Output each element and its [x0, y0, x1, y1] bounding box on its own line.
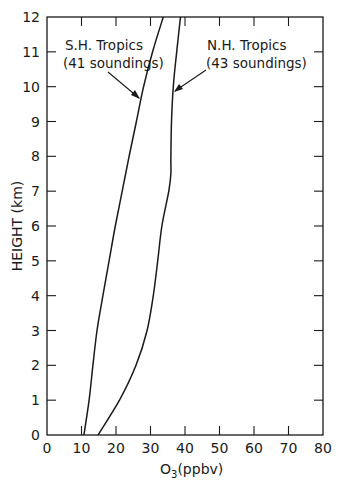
y-axis-title: HEIGHT (km) — [9, 181, 25, 272]
y-tick-label: 9 — [31, 114, 40, 130]
y-tick-label: 6 — [31, 218, 40, 234]
x-tick-label: 30 — [142, 440, 160, 456]
nh-arrowhead-icon — [174, 84, 183, 92]
y-tick-label: 11 — [22, 44, 40, 60]
y-tick-label: 10 — [22, 79, 40, 95]
y-tick-label: 12 — [22, 9, 40, 25]
x-tick-label: 20 — [107, 440, 125, 456]
x-tick-label: 70 — [280, 440, 298, 456]
y-tick-label: 5 — [31, 253, 40, 269]
y-tick-label: 7 — [31, 183, 40, 199]
sh-arrowhead-icon — [131, 90, 140, 99]
x-tick-label: 80 — [314, 440, 332, 456]
y-tick-label: 4 — [31, 288, 40, 304]
y-tick-label: 3 — [31, 323, 40, 339]
nh-label-line1: N.H. Tropics — [207, 37, 286, 53]
y-tick-label: 1 — [31, 392, 40, 408]
axis-ticks — [47, 17, 323, 435]
y-tick-label: 2 — [31, 357, 40, 373]
x-tick-label: 0 — [43, 440, 52, 456]
x-axis-title-main: O — [160, 461, 171, 477]
y-tick-label: 0 — [31, 427, 40, 443]
y-tick-label: 8 — [31, 148, 40, 164]
sh-tropics-curve — [84, 17, 163, 435]
x-tick-label: 40 — [176, 440, 194, 456]
nh-label-line2: (43 soundings) — [206, 55, 307, 71]
x-tick-label: 50 — [211, 440, 229, 456]
data-curves — [84, 17, 181, 435]
x-axis-title-unit: (ppbv) — [177, 461, 223, 477]
plot-frame — [47, 17, 323, 435]
nh-tropics-curve — [98, 17, 180, 435]
x-axis-title: O3(ppbv) — [160, 461, 223, 480]
x-tick-labels: 01020304050607080 — [43, 440, 332, 456]
x-tick-label: 60 — [245, 440, 263, 456]
sh-label-line1: S.H. Tropics — [65, 37, 143, 53]
x-tick-label: 10 — [73, 440, 91, 456]
sh-label-line2: (41 soundings) — [63, 55, 164, 71]
ozone-profile-chart: 01020304050607080 0123456789101112 S.H. … — [0, 0, 345, 491]
